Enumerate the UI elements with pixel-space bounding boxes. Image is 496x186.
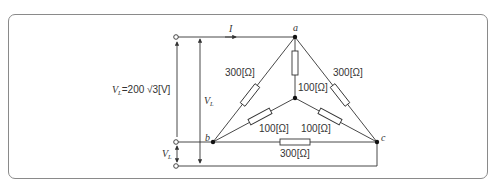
node-a-label: a [293,22,298,33]
terminal-bottom [174,164,179,169]
node-a [293,35,297,39]
resistor-delta-ab [240,84,260,107]
terminal-top [174,35,179,40]
label-wye-a: 100[Ω] [298,82,328,93]
node-c [375,140,379,144]
circuit-diagram: a b c I VL=200 √3[V] VL VL 300[Ω] 300[Ω]… [0,0,496,186]
resistor-wye-a [292,51,298,75]
source-voltage-label: VL=200 √3[V] [112,84,171,96]
node-neutral [293,96,297,100]
terminal-mid [174,140,179,145]
node-b [211,140,215,144]
current-label: I [228,23,233,34]
lower-voltage-label: VL [162,148,172,160]
node-c-label: c [381,132,386,143]
line-voltage-label: VL [204,95,214,107]
node-b-label: b [205,132,210,143]
label-delta-bc: 300[Ω] [280,148,310,159]
label-delta-ab: 300[Ω] [225,67,255,78]
resistor-delta-ac [330,84,350,107]
resistor-delta-bc [280,139,310,145]
label-wye-b: 100[Ω] [259,123,289,134]
label-wye-c: 100[Ω] [301,123,331,134]
label-delta-ac: 300[Ω] [333,67,363,78]
